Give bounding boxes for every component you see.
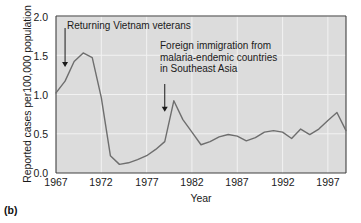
plot-canvas <box>0 0 361 223</box>
annotation-foreign-immigration: Foreign immigration from malaria-endemic… <box>160 40 277 75</box>
panel-caption: (b) <box>4 204 17 216</box>
malaria-incidence-figure: Reported cases per100,000 population Yea… <box>0 0 361 223</box>
annotation-returning-vietnam-veterans: Returning Vietnam veterans <box>67 20 191 32</box>
